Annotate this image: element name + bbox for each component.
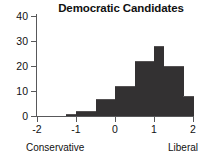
x-axis-tick — [115, 117, 116, 122]
y-axis-tick-label: 30 — [2, 36, 28, 46]
y-axis-tick — [31, 91, 36, 92]
plot-area — [37, 16, 193, 116]
x-axis-tick-label: 0 — [103, 124, 127, 135]
y-axis-tick — [31, 66, 36, 67]
chart-title: Democratic Candidates — [46, 2, 196, 14]
axis-caption-liberal: Liberal — [168, 142, 198, 153]
x-axis-tick-label: -1 — [64, 124, 88, 135]
histogram-figure: Democratic Candidates 010203040 -2-1012 … — [0, 0, 203, 161]
axis-caption-conservative: Conservative — [26, 142, 84, 153]
x-axis-tick-label: 2 — [181, 124, 203, 135]
x-axis-tick — [37, 117, 38, 122]
x-axis-tick — [154, 117, 155, 122]
y-axis-tick-label: 10 — [2, 86, 28, 96]
y-axis-tick — [31, 116, 36, 117]
x-axis-tick — [193, 117, 194, 122]
y-axis-tick-label: 40 — [2, 11, 28, 21]
y-axis-tick-label: 0 — [2, 111, 28, 121]
y-axis-tick — [31, 16, 36, 17]
y-axis-tick-label: 20 — [2, 61, 28, 71]
histogram-bar — [183, 96, 193, 116]
x-axis-tick-label: -2 — [25, 124, 49, 135]
y-axis-tick — [31, 41, 36, 42]
x-axis-tick-label: 1 — [142, 124, 166, 135]
x-axis-tick — [76, 117, 77, 122]
